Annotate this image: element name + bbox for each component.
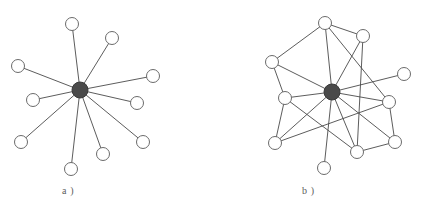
peripheral-node — [137, 136, 150, 149]
peripheral-node — [66, 18, 79, 31]
panel-label-a: a ) — [62, 185, 74, 196]
network-edge — [80, 38, 112, 90]
peripheral-node — [65, 163, 78, 176]
panel-a — [12, 18, 160, 176]
network-edge — [18, 66, 80, 90]
peripheral-node — [266, 56, 279, 69]
hub-node — [72, 82, 88, 98]
network-edge — [71, 90, 80, 169]
peripheral-node — [106, 32, 119, 45]
network-edge — [275, 102, 389, 143]
peripheral-node — [279, 92, 292, 105]
peripheral-node — [131, 97, 144, 110]
peripheral-node — [351, 146, 364, 159]
peripheral-node — [269, 137, 282, 150]
panel-b — [266, 17, 411, 175]
network-edge — [357, 36, 363, 152]
node-group-b — [266, 17, 411, 175]
network-edge — [325, 23, 332, 92]
peripheral-node — [319, 17, 332, 30]
peripheral-node — [147, 70, 160, 83]
panel-label-b: b ) — [302, 185, 315, 196]
peripheral-node — [398, 68, 411, 81]
peripheral-node — [389, 136, 402, 149]
network-topology-diagram — [0, 0, 424, 210]
hub-node — [324, 84, 340, 100]
network-edge — [332, 92, 389, 102]
peripheral-node — [318, 162, 331, 175]
network-edge — [80, 76, 153, 90]
figure-root: a ) b ) — [0, 0, 424, 210]
network-edge — [272, 23, 325, 62]
peripheral-node — [27, 94, 40, 107]
node-group-a — [12, 18, 160, 176]
peripheral-node — [357, 30, 370, 43]
network-edge — [72, 24, 80, 90]
peripheral-node — [383, 96, 396, 109]
peripheral-node — [12, 60, 25, 73]
peripheral-node — [15, 136, 28, 149]
peripheral-node — [97, 148, 110, 161]
